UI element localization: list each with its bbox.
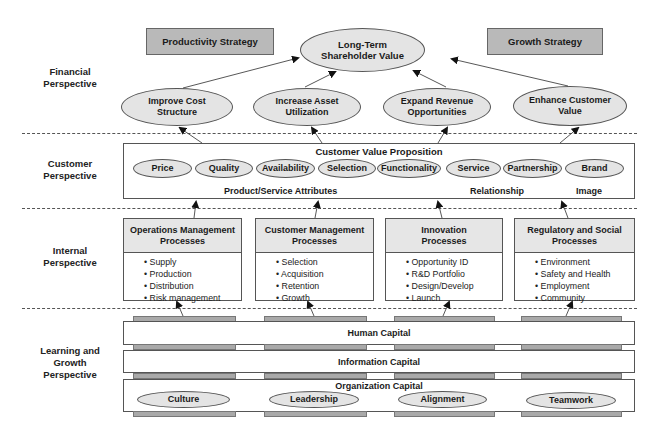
pillar-bar — [133, 411, 236, 417]
growth-strategy-box: Growth Strategy — [487, 28, 603, 55]
customer-perspective-label: Customer Perspective — [30, 158, 110, 182]
pillar-bar — [521, 411, 622, 417]
process-items: Supply Production Distribution Risk mana… — [124, 253, 241, 304]
customer-management-processes: Customer Management Processes Selection … — [255, 218, 374, 301]
process-title: Innovation Processes — [386, 219, 502, 253]
separator-customer-internal — [22, 208, 637, 209]
attribute-quality: Quality — [195, 159, 253, 178]
financial-perspective-label: Financial Perspective — [30, 66, 110, 90]
attribute-brand: Brand — [565, 159, 624, 178]
process-item: Selection — [276, 256, 373, 268]
internal-perspective-label: Internal Perspective — [30, 245, 110, 269]
innovation-processes: Innovation Processes Opportunity ID R&D … — [385, 218, 503, 301]
process-title: Operations Management Processes — [124, 219, 241, 253]
image-label: Image — [576, 186, 602, 196]
attribute-selection: Selection — [318, 159, 376, 178]
productivity-strategy-box: Productivity Strategy — [146, 28, 274, 55]
process-item: Community — [535, 292, 634, 304]
attribute-functionality: Functionality — [377, 159, 441, 178]
process-item: Opportunity ID — [406, 256, 502, 268]
org-item-alignment: Alignment — [398, 391, 487, 408]
process-item: Retention — [276, 280, 373, 292]
process-items: Environment Safety and Health Employment… — [515, 253, 634, 304]
process-item: Safety and Health — [535, 268, 634, 280]
product-service-attributes-label: Product/Service Attributes — [224, 186, 337, 196]
pillar-bar — [394, 411, 495, 417]
process-item: Growth — [276, 292, 373, 304]
process-items: Opportunity ID R&D Portfolio Design/Deve… — [386, 253, 502, 304]
process-item: Launch — [406, 292, 502, 304]
expand-revenue-opportunities: Expand Revenue Opportunities — [383, 88, 491, 126]
regulatory-and-social-processes: Regulatory and Social Processes Environm… — [514, 218, 635, 301]
process-item: Distribution — [144, 280, 241, 292]
enhance-customer-value: Enhance Customer Value — [513, 86, 627, 126]
improve-cost-structure: Improve Cost Structure — [121, 88, 233, 126]
org-item-leadership: Leadership — [269, 391, 359, 408]
process-title: Regulatory and Social Processes — [515, 219, 634, 253]
process-item: Risk management — [144, 292, 241, 304]
learning-perspective-label: Learning and Growth Perspective — [28, 345, 112, 381]
attribute-service: Service — [446, 159, 501, 178]
attribute-price: Price — [133, 159, 192, 178]
attribute-availability: Availability — [256, 159, 315, 178]
process-item: R&D Portfolio — [406, 268, 502, 280]
human-capital-label: Human Capital — [124, 328, 634, 338]
pillar-bar — [264, 411, 367, 417]
process-item: Supply — [144, 256, 241, 268]
org-item-teamwork: Teamwork — [526, 392, 616, 409]
process-item: Production — [144, 268, 241, 280]
process-title: Customer Management Processes — [256, 219, 373, 253]
org-item-culture: Culture — [137, 391, 230, 408]
relationship-label: Relationship — [470, 186, 524, 196]
customer-value-proposition-title: Customer Value Proposition — [124, 146, 634, 157]
increase-asset-utilization: Increase Asset Utilization — [253, 88, 361, 126]
organization-capital-label: Organization Capital — [124, 381, 634, 391]
attribute-partnership: Partnership — [503, 159, 562, 178]
separator-internal-learning — [22, 308, 637, 309]
process-item: Design/Develop — [406, 280, 502, 292]
process-item: Employment — [535, 280, 634, 292]
information-capital-box: Information Capital — [123, 350, 635, 373]
process-items: Selection Acquisition Retention Growth — [256, 253, 373, 304]
information-capital-label: Information Capital — [124, 357, 634, 367]
process-item: Acquisition — [276, 268, 373, 280]
human-capital-box: Human Capital — [123, 321, 635, 345]
process-item: Environment — [535, 256, 634, 268]
long-term-shareholder-value: Long-Term Shareholder Value — [300, 28, 425, 72]
operations-management-processes: Operations Management Processes Supply P… — [123, 218, 242, 301]
separator-financial-customer — [22, 133, 637, 134]
